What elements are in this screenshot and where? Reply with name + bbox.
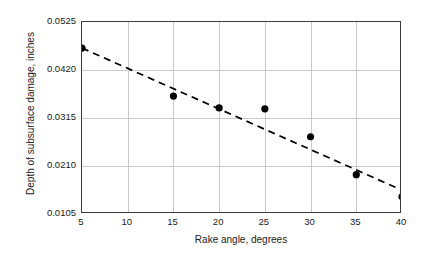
- data-point: [353, 171, 360, 178]
- x-tick-label: 5: [78, 217, 83, 227]
- y-tick-label: 0.0315: [47, 112, 76, 122]
- x-axis-tick-labels: 510152025303540: [0, 217, 427, 231]
- plot-area: [81, 21, 401, 213]
- plot-inner: [82, 22, 400, 212]
- x-tick-label: 10: [121, 217, 132, 227]
- x-tick-label: 15: [167, 217, 178, 227]
- x-axis-title: Rake angle, degrees: [81, 234, 401, 245]
- x-tick-label: 25: [259, 217, 270, 227]
- y-axis-title: Depth of subsurface damage, inches: [25, 14, 36, 214]
- data-layer: [82, 22, 400, 212]
- data-point: [261, 105, 268, 112]
- x-tick-label: 35: [350, 217, 361, 227]
- trend-line: [82, 48, 400, 190]
- x-tick-label: 20: [213, 217, 224, 227]
- x-tick-label: 40: [396, 217, 407, 227]
- figure: 0.01050.02100.03150.04200.0525 Depth of …: [0, 0, 427, 260]
- data-point: [170, 92, 177, 99]
- data-point: [398, 193, 400, 200]
- x-tick-label: 30: [304, 217, 315, 227]
- y-tick-label: 0.0420: [47, 64, 76, 74]
- y-tick-label: 0.0210: [47, 160, 76, 170]
- data-point: [307, 133, 314, 140]
- y-tick-label: 0.0525: [47, 16, 76, 26]
